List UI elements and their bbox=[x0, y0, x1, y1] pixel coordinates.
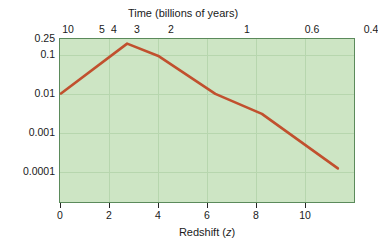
plot-area bbox=[59, 38, 355, 203]
top-tick-label: 0.6 bbox=[305, 23, 320, 35]
x-tick-label: 2 bbox=[106, 209, 112, 221]
top-tick-label: 4 bbox=[111, 23, 117, 35]
top-tick-label: 2 bbox=[168, 23, 174, 35]
x-tick-mark bbox=[305, 203, 306, 208]
y-tick-label: 0.0001 bbox=[0, 165, 55, 177]
star-formation-rate-polyline bbox=[61, 44, 338, 169]
x-tick-label: 6 bbox=[204, 209, 210, 221]
y-tick-label: 0.25 bbox=[0, 32, 55, 44]
x-tick-mark bbox=[256, 203, 257, 208]
top-tick-label: 1 bbox=[244, 23, 250, 35]
y-tick-label: 0.01 bbox=[0, 87, 55, 99]
y-tick-label: 0.001 bbox=[0, 126, 55, 138]
x-axis-title-prefix: Redshift ( bbox=[179, 226, 226, 238]
x-tick-mark bbox=[60, 203, 61, 208]
x-tick-mark bbox=[158, 203, 159, 208]
x-tick-mark bbox=[109, 203, 110, 208]
top-tick-label: 10 bbox=[62, 23, 74, 35]
x-tick-label: 10 bbox=[299, 209, 311, 221]
top-tick-label: 3 bbox=[134, 23, 140, 35]
top-tick-label: 0.4 bbox=[364, 23, 378, 35]
x-tick-label: 4 bbox=[155, 209, 161, 221]
x-axis-title-suffix: ) bbox=[231, 226, 235, 238]
top-tick-label: 5 bbox=[99, 23, 105, 35]
y-tick-label: 0.1 bbox=[0, 48, 55, 60]
x-tick-label: 0 bbox=[57, 209, 63, 221]
data-curve bbox=[60, 39, 356, 204]
x-tick-mark bbox=[207, 203, 208, 208]
x-axis-title: Redshift (z) bbox=[179, 226, 235, 238]
x-tick-label: 8 bbox=[253, 209, 259, 221]
